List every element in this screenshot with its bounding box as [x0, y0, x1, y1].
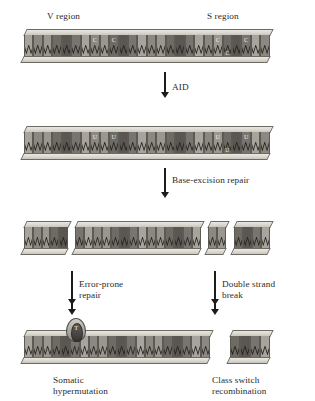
base-notch [251, 45, 260, 54]
base-notch [166, 142, 175, 151]
step-label-aid: AID [172, 82, 189, 93]
base-pair [93, 227, 102, 249]
base-pair [250, 336, 260, 358]
base-pair [75, 227, 84, 249]
base-pair [175, 132, 184, 154]
base-pair [43, 132, 52, 154]
region-label-v: V region [47, 11, 80, 22]
arrow-shaft [164, 72, 166, 93]
base-notch [100, 142, 109, 151]
step-label-class-switch-recombination: Class switch recombination [212, 375, 266, 397]
base-pair [240, 336, 250, 358]
base-pair [232, 132, 241, 154]
base-pair [62, 132, 71, 154]
base-pair [182, 336, 191, 358]
base-notch [129, 237, 138, 246]
base-pair [154, 336, 163, 358]
base-notch [183, 237, 192, 246]
base-pair [117, 336, 126, 358]
base-notch [147, 237, 156, 246]
base-pair [185, 132, 194, 154]
base-notch [109, 142, 118, 151]
base-pair [33, 132, 42, 154]
base-pair [260, 35, 269, 57]
arrow-shaft [164, 168, 166, 193]
base-notch [185, 142, 194, 151]
base-notch [201, 346, 210, 355]
base-notch [24, 142, 33, 151]
base-notch [80, 346, 89, 355]
bottom-rail [20, 357, 210, 364]
base-notch [185, 45, 194, 54]
base-pair [24, 35, 33, 57]
base-notch [126, 346, 135, 355]
mutation-letter: T [67, 324, 85, 331]
base-pair [89, 336, 98, 358]
base-pair [261, 227, 270, 249]
base-pair [52, 35, 61, 57]
base-pair [208, 227, 217, 249]
base-row [234, 227, 270, 249]
base-notch [213, 142, 222, 151]
base-notch [251, 142, 260, 151]
base-notch [232, 142, 241, 151]
base-pair [24, 132, 33, 154]
base-notch [71, 45, 80, 54]
base-pair [156, 35, 165, 57]
base-letter: U [224, 147, 231, 153]
base-notch [33, 346, 42, 355]
strand-germline-segment-0: CCCCC [22, 29, 272, 69]
base-pair [137, 132, 146, 154]
base-pair [81, 132, 90, 154]
base-pair [230, 336, 240, 358]
base-notch [156, 237, 165, 246]
base-notch [240, 346, 250, 355]
base-notch [24, 45, 33, 54]
base-pair [100, 35, 109, 57]
base-pair [147, 35, 156, 57]
base-notch [234, 237, 243, 246]
base-pair: C [223, 35, 232, 57]
base-notch [230, 346, 240, 355]
base-pair [128, 132, 137, 154]
base-pair [24, 227, 33, 249]
base-notch [261, 237, 270, 246]
base-pair [81, 35, 90, 57]
base-letter: U [91, 134, 98, 140]
base-pair: C [109, 35, 118, 57]
base-pair: U [90, 132, 99, 154]
base-notch [33, 142, 42, 151]
base-pair [98, 336, 107, 358]
base-notch [59, 237, 68, 246]
base-notch [156, 142, 165, 151]
base-notch [108, 346, 117, 355]
base-row [230, 336, 270, 358]
base-notch [61, 346, 70, 355]
base-pair [100, 132, 109, 154]
base-pair [52, 336, 61, 358]
base-notch [154, 346, 163, 355]
base-pair [43, 336, 52, 358]
base-pair [119, 35, 128, 57]
base-letter: C [224, 50, 231, 56]
base-pair [166, 35, 175, 57]
base-notch [204, 142, 213, 151]
base-notch [81, 142, 90, 151]
base-pair: U [109, 132, 118, 154]
class-switch-arrow [214, 300, 216, 315]
base-pair [191, 336, 200, 358]
base-notch [90, 45, 99, 54]
base-notch [43, 45, 52, 54]
base-notch [90, 142, 99, 151]
base-notch [213, 45, 222, 54]
strand-nicked-segment-2 [206, 221, 228, 261]
base-notch [81, 45, 90, 54]
base-pair [234, 227, 243, 249]
base-notch [156, 45, 165, 54]
base-notch [52, 45, 61, 54]
base-notch [147, 45, 156, 54]
base-pair: U [213, 132, 222, 154]
base-pair [24, 336, 33, 358]
base-notch [194, 142, 203, 151]
base-pair [260, 132, 269, 154]
